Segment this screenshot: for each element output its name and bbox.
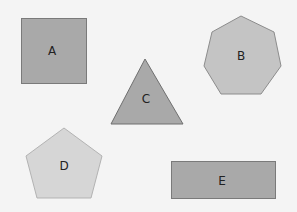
shape-a-label: A bbox=[48, 44, 57, 58]
shape-d-label: D bbox=[59, 159, 68, 173]
shape-e-label: E bbox=[218, 174, 226, 188]
shape-b-label: B bbox=[237, 49, 245, 63]
shape-e-rectangle: E bbox=[172, 162, 276, 199]
shape-a-square: A bbox=[22, 19, 87, 84]
shape-c-label: C bbox=[142, 92, 150, 106]
shapes-diagram: A B C D E bbox=[0, 0, 297, 212]
